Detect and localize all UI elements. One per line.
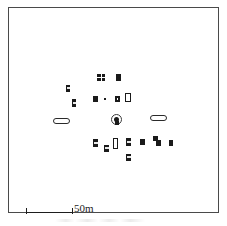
scale-bar: 50m xyxy=(26,202,122,220)
map-marker-s15 xyxy=(126,138,131,146)
map-marker-s14 xyxy=(113,138,118,149)
map-marker-s07 xyxy=(115,96,120,102)
map-marker-s11 xyxy=(150,115,167,121)
map-marker-s02 xyxy=(116,74,121,81)
scale-bar-tick-left xyxy=(26,208,27,214)
map-marker-s08 xyxy=(125,93,131,102)
map-marker-s18 xyxy=(156,140,161,146)
map-marker-s20 xyxy=(126,154,131,161)
map-marker-s03 xyxy=(66,85,70,92)
map-marker-s10-tail xyxy=(115,121,119,125)
caption-smudge xyxy=(55,219,145,222)
map-marker-s19 xyxy=(169,140,173,146)
scale-bar-tick-right xyxy=(72,208,73,214)
map-marker-s01 xyxy=(97,74,105,81)
map-marker-s12 xyxy=(93,139,98,147)
site-plan-figure: 50m xyxy=(0,0,227,226)
map-marker-s04 xyxy=(72,99,76,107)
map-frame: 50m xyxy=(8,7,219,213)
map-marker-s05 xyxy=(93,96,98,102)
map-marker-s06 xyxy=(104,98,106,100)
map-marker-s16 xyxy=(140,139,145,145)
map-plot-area xyxy=(9,8,218,212)
scale-bar-label: 50m xyxy=(74,202,94,214)
map-marker-s09 xyxy=(53,118,70,124)
map-marker-s10 xyxy=(111,114,122,125)
map-marker-s13 xyxy=(104,145,109,152)
scale-bar-line xyxy=(26,212,73,213)
